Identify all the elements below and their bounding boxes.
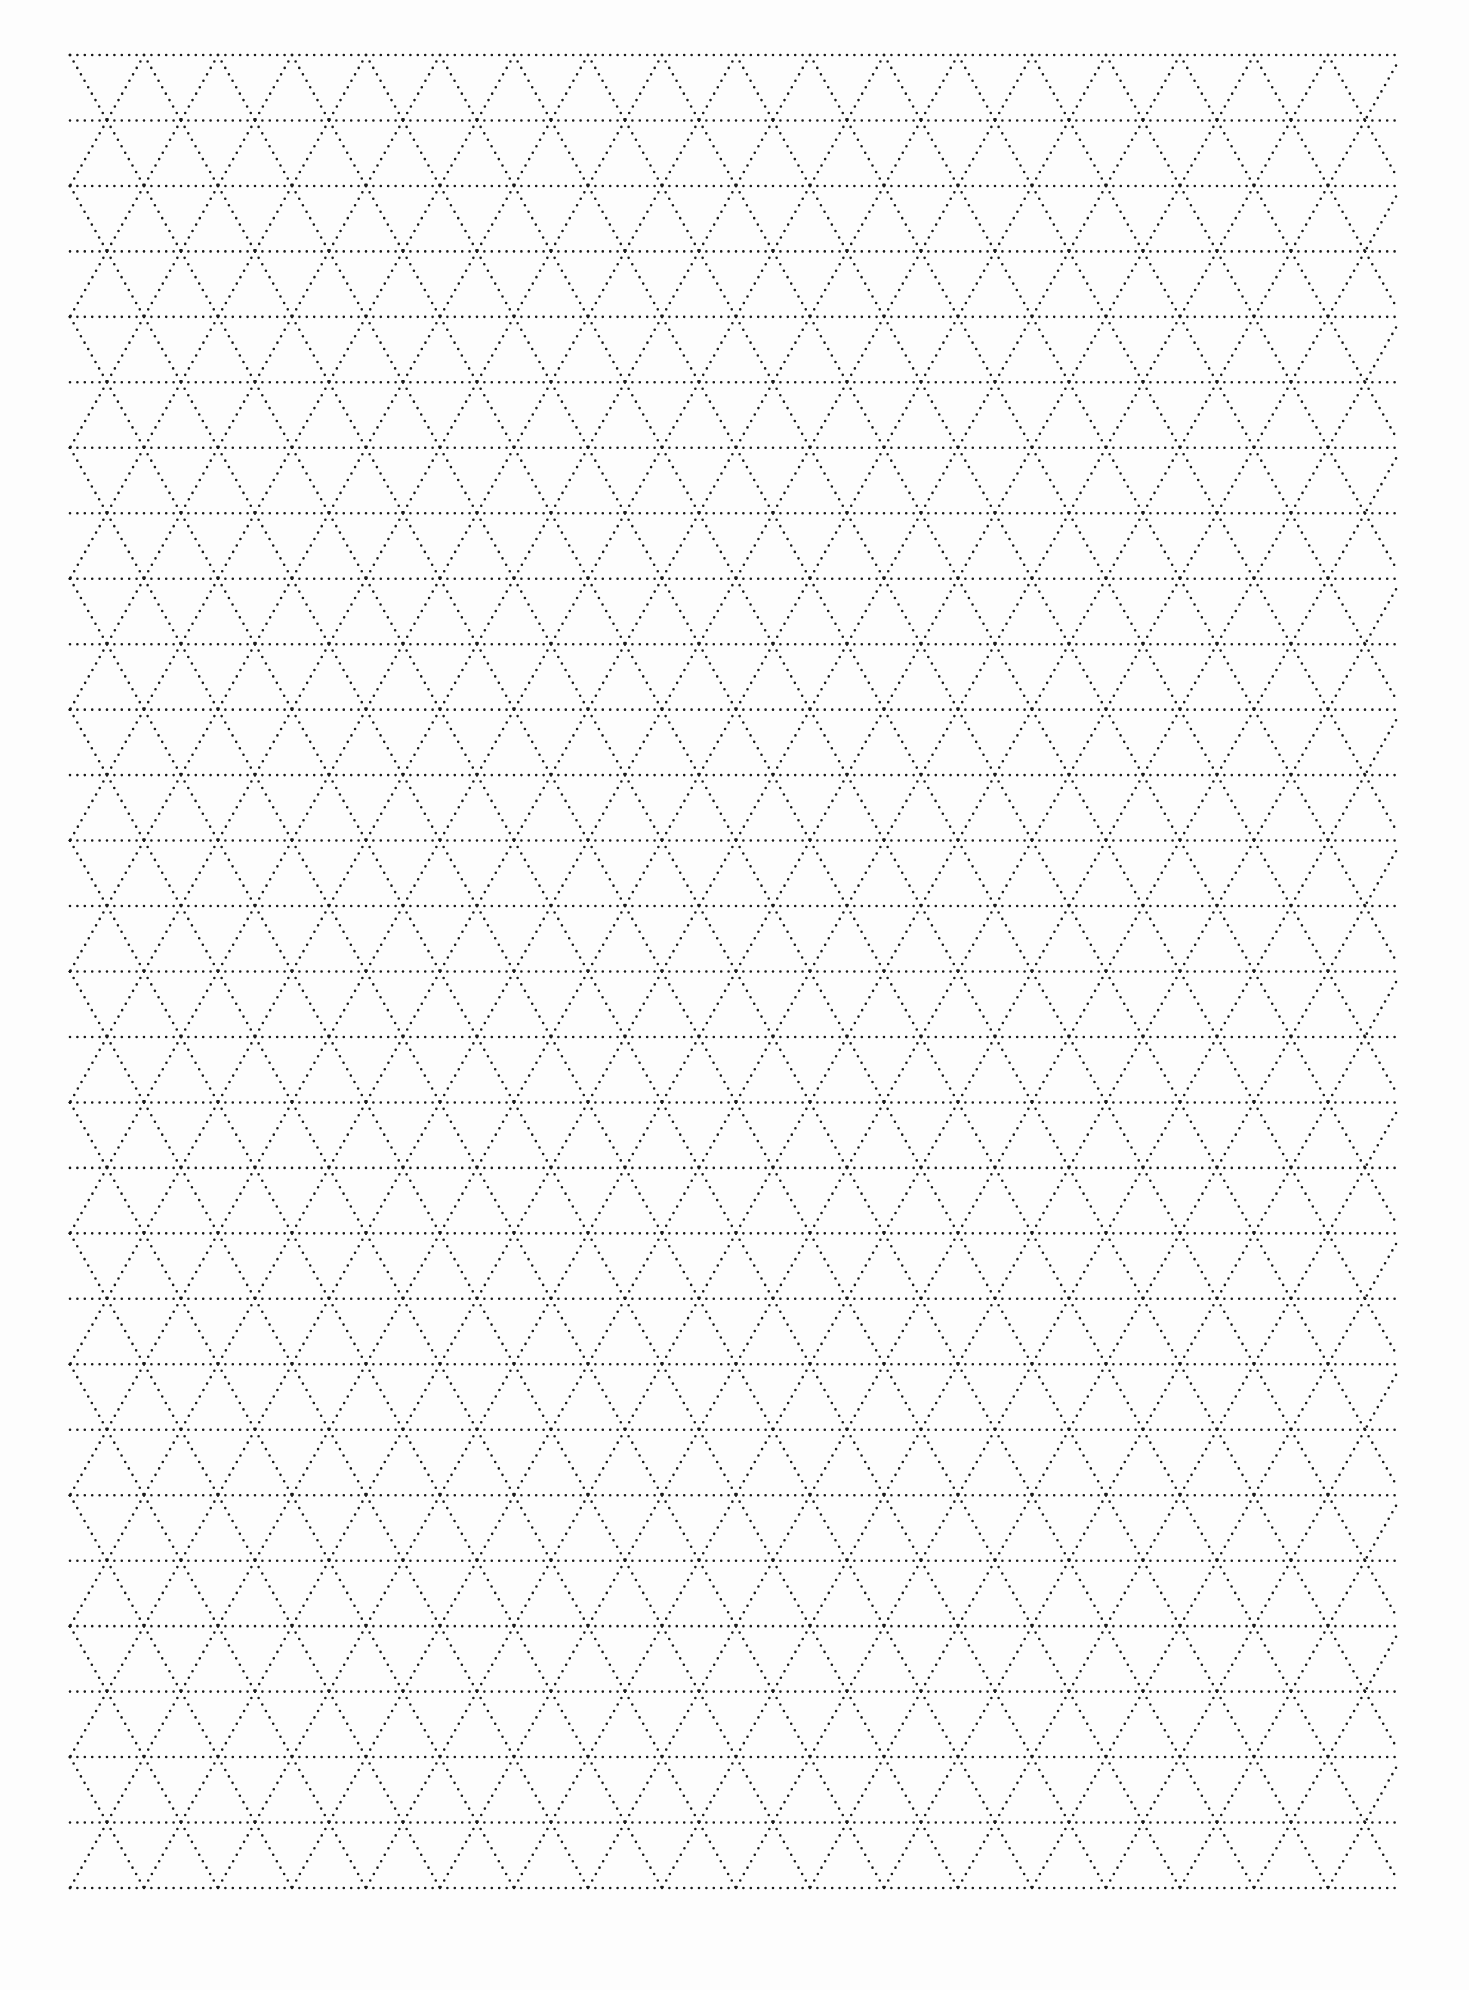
grid-diagonal-line (1217, 1102, 1254, 1167)
grid-diagonal-line (847, 513, 884, 578)
grid-diagonal-line (329, 448, 366, 513)
grid-diagonal-line (736, 1299, 773, 1364)
grid-diagonal-line (773, 120, 810, 185)
grid-diagonal-line (292, 841, 329, 906)
grid-diagonal-line (181, 186, 218, 251)
grid-diagonal-line (551, 1495, 588, 1560)
grid-diagonal-line (810, 317, 847, 382)
grid-diagonal-line (699, 513, 736, 578)
grid-diagonal-line (1365, 513, 1396, 568)
grid-diagonal-line (514, 382, 551, 447)
grid-diagonal-line (1032, 710, 1069, 775)
grid-diagonal-line (107, 317, 144, 382)
grid-diagonal-line (1365, 120, 1396, 175)
grid-diagonal-line (144, 775, 181, 840)
grid-diagonal-line (995, 1626, 1032, 1691)
grid-diagonal-line (366, 1364, 403, 1429)
grid-diagonal-line (255, 906, 292, 971)
grid-diagonal-line (329, 186, 366, 251)
grid-diagonal-line (1254, 775, 1291, 840)
grid-diagonal-line (440, 1233, 477, 1298)
grid-diagonal-line (1143, 1102, 1180, 1167)
grid-diagonal-line (440, 448, 477, 513)
grid-diagonal-line (70, 513, 107, 578)
grid-diagonal-line (366, 1299, 403, 1364)
grid-diagonal-line (1291, 1233, 1328, 1298)
grid-diagonal-line (773, 1757, 810, 1822)
grid-diagonal-line (255, 1364, 292, 1429)
grid-diagonal-line (810, 906, 847, 971)
grid-diagonal-line (884, 1037, 921, 1102)
grid-diagonal-line (1180, 186, 1217, 251)
grid-diagonal-line (292, 644, 329, 709)
grid-diagonal-line (1254, 1495, 1291, 1560)
grid-diagonal-line (181, 1561, 218, 1626)
grid-diagonal-line (144, 1692, 181, 1757)
grid-diagonal-line (477, 382, 514, 447)
grid-diagonal-line (1180, 1364, 1217, 1429)
grid-diagonal-line (1143, 579, 1180, 644)
grid-diagonal-line (514, 775, 551, 840)
grid-diagonal-line (107, 710, 144, 775)
grid-diagonal-line (1180, 906, 1217, 971)
grid-diagonal-line (958, 1495, 995, 1560)
grid-diagonal-line (1254, 1823, 1291, 1888)
grid-diagonal-line (1180, 579, 1217, 644)
grid-diagonal-line (958, 120, 995, 185)
grid-diagonal-line (1254, 382, 1291, 447)
grid-diagonal-line (1217, 1823, 1254, 1888)
grid-diagonal-line (218, 1102, 255, 1167)
grid-diagonal-line (1254, 710, 1291, 775)
grid-diagonal-line (625, 644, 662, 709)
grid-diagonal-line (144, 1037, 181, 1102)
grid-diagonal-line (1365, 589, 1396, 644)
grid-diagonal-line (477, 1561, 514, 1626)
grid-diagonal-line (1143, 1495, 1180, 1560)
grid-diagonal-line (1365, 458, 1396, 513)
grid-diagonal-line (70, 120, 107, 185)
grid-diagonal-line (551, 1692, 588, 1757)
grid-diagonal-line (1069, 55, 1106, 120)
grid-diagonal-line (773, 972, 810, 1037)
grid-diagonal-line (181, 382, 218, 447)
grid-diagonal-line (144, 710, 181, 775)
grid-diagonal-line (107, 1037, 144, 1102)
grid-diagonal-line (847, 1823, 884, 1888)
grid-diagonal-line (1291, 1495, 1328, 1560)
grid-diagonal-line (1143, 841, 1180, 906)
grid-diagonal-line (70, 1233, 107, 1298)
grid-diagonal-line (292, 1823, 329, 1888)
grid-diagonal-line (514, 710, 551, 775)
grid-diagonal-line (958, 186, 995, 251)
grid-diagonal-line (1180, 775, 1217, 840)
grid-diagonal-line (477, 710, 514, 775)
grid-diagonal-line (847, 1299, 884, 1364)
grid-diagonal-line (884, 1233, 921, 1298)
grid-diagonal-line (181, 1430, 218, 1495)
grid-diagonal-line (736, 1168, 773, 1233)
grid-diagonal-line (329, 579, 366, 644)
grid-diagonal-line (1143, 1037, 1180, 1102)
grid-diagonal-line (403, 1168, 440, 1233)
grid-diagonal-line (1217, 1299, 1254, 1364)
grid-diagonal-line (514, 448, 551, 513)
grid-diagonal-line (588, 1102, 625, 1167)
grid-diagonal-line (70, 317, 107, 382)
grid-diagonal-line (477, 120, 514, 185)
grid-diagonal-line (1106, 579, 1143, 644)
grid-diagonal-line (884, 382, 921, 447)
grid-diagonal-line (144, 906, 181, 971)
grid-diagonal-line (1254, 1037, 1291, 1102)
grid-diagonal-line (995, 448, 1032, 513)
grid-diagonal-line (70, 1561, 107, 1626)
grid-diagonal-line (958, 317, 995, 382)
grid-diagonal-line (995, 841, 1032, 906)
grid-diagonal-line (403, 1692, 440, 1757)
grid-diagonal-line (958, 841, 995, 906)
grid-diagonal-line (736, 1823, 773, 1888)
grid-diagonal-line (292, 775, 329, 840)
grid-diagonal-line (107, 1430, 144, 1495)
grid-diagonal-line (514, 906, 551, 971)
grid-diagonal-line (1328, 120, 1365, 185)
grid-diagonal-line (810, 1299, 847, 1364)
